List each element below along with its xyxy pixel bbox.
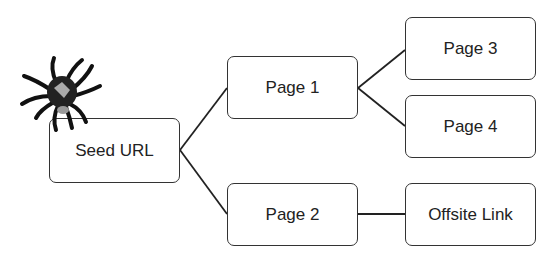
- node-label: Page 4: [444, 117, 498, 137]
- node-label: Offsite Link: [428, 205, 513, 225]
- edge-page1-page3: [358, 50, 405, 88]
- spider-icon: [16, 52, 106, 137]
- node-page-4: Page 4: [405, 95, 536, 158]
- edge-seed-page2: [180, 150, 227, 214]
- node-label: Seed URL: [75, 141, 153, 161]
- node-label: Page 1: [266, 78, 320, 98]
- node-offsite-link: Offsite Link: [405, 183, 536, 246]
- edge-page1-page4: [358, 88, 405, 126]
- node-page-1: Page 1: [227, 56, 358, 119]
- node-page-3: Page 3: [405, 17, 536, 80]
- node-label: Page 2: [266, 205, 320, 225]
- node-label: Page 3: [444, 39, 498, 59]
- edge-seed-page1: [180, 88, 227, 150]
- node-page-2: Page 2: [227, 183, 358, 246]
